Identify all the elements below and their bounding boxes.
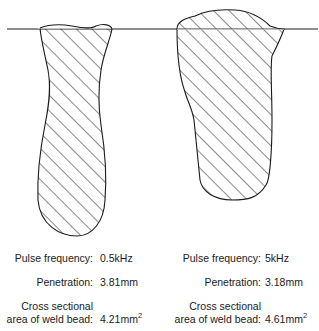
right-area-value: 4.61mm2 xyxy=(265,313,307,325)
right-area-label-line1: Cross sectional xyxy=(189,300,261,312)
left-weld-bead xyxy=(38,25,112,236)
right-pulse-frequency-value: 5kHz xyxy=(265,252,289,264)
left-pulse-frequency-value: 0.5kHz xyxy=(100,252,133,264)
left-penetration-value: 3.81mm xyxy=(100,276,138,288)
left-area-label-line2: area of weld bead: xyxy=(7,313,93,325)
left-pulse-frequency-label: Pulse frequency: xyxy=(15,252,93,264)
left-area-value: 4.21mm2 xyxy=(100,313,142,325)
right-area-label-line2: area of weld bead: xyxy=(175,313,261,325)
right-weld-bead xyxy=(177,10,284,200)
right-penetration-value: 3.18mm xyxy=(265,276,303,288)
right-penetration-label: Penetration: xyxy=(204,276,261,288)
left-area-label-line1: Cross sectional xyxy=(21,300,93,312)
left-penetration-label: Penetration: xyxy=(36,276,93,288)
right-pulse-frequency-label: Pulse frequency: xyxy=(183,252,261,264)
